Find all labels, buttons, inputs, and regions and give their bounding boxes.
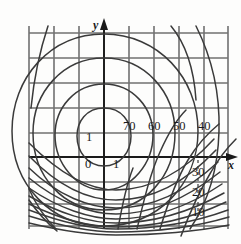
contour-label-60: 60 — [148, 120, 161, 133]
contour-label-50: 50 — [173, 120, 186, 133]
contour-label-30: 30 — [192, 166, 205, 179]
contour-label-20: 20 — [192, 186, 205, 199]
contour-label-70: 70 — [123, 120, 136, 133]
contour-label-10: 10 — [192, 206, 205, 219]
y-unit-tick-label: 1 — [86, 131, 92, 144]
x-unit-tick-label: 1 — [113, 158, 119, 171]
origin-tick-label: 0 — [85, 158, 91, 171]
y-axis-label: y — [93, 19, 98, 31]
contour-curve-level-45 — [171, 26, 196, 100]
y-axis-arrowhead — [100, 18, 108, 30]
x-axis-label: x — [228, 159, 234, 171]
contour-plot-figure: y x 0 1 1 70 60 50 40 30 20 10 — [0, 0, 241, 244]
contour-label-40: 40 — [198, 120, 211, 133]
